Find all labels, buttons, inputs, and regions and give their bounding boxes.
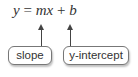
intercept-arrow-line [70,29,71,47]
slope-label: slope [16,49,44,61]
equals-sign: = [23,2,31,18]
var-b: b [69,2,77,18]
var-m: m [36,2,47,18]
slope-arrow-line [41,29,42,47]
var-x: x [46,2,53,18]
intercept-label-box: y-intercept [63,46,129,65]
intercept-label: y-intercept [69,49,123,61]
var-y: y [13,2,20,18]
plus-sign: + [57,2,65,18]
slope-label-box: slope [8,46,52,65]
equation: y = mx + b [13,2,77,19]
